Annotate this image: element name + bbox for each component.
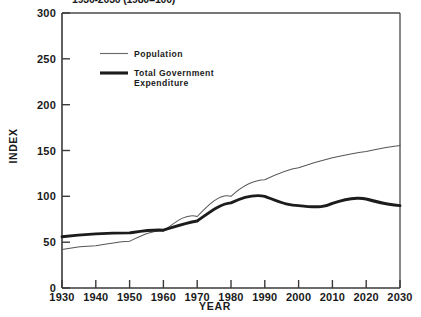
x-tick-label-1990: 1990: [247, 291, 283, 303]
legend-label-expenditure-line1: Total Government: [134, 68, 214, 79]
legend-label-population: Population: [134, 49, 183, 60]
y-axis-ticks: [62, 13, 70, 288]
y-axis-title: INDEX: [7, 124, 19, 168]
legend-label-expenditure-line2: Expenditure: [134, 78, 189, 89]
y-tick-label-150: 150: [16, 145, 56, 157]
x-axis-title: YEAR: [180, 300, 250, 312]
x-tick-label-1950: 1950: [112, 291, 148, 303]
x-tick-label-2020: 2020: [348, 291, 384, 303]
y-tick-label-100: 100: [16, 190, 56, 202]
x-tick-label-2000: 2000: [281, 291, 317, 303]
y-tick-label-200: 200: [16, 99, 56, 111]
x-tick-label-2010: 2010: [314, 291, 350, 303]
y-tick-label-300: 300: [16, 7, 56, 19]
x-tick-label-1930: 1930: [44, 291, 80, 303]
x-tick-label-1940: 1940: [78, 291, 114, 303]
chart-plot-area: [0, 0, 421, 317]
x-axis-ticks: [62, 280, 400, 288]
y-tick-label-250: 250: [16, 53, 56, 65]
y-tick-label-50: 50: [16, 236, 56, 248]
chart-figure: 1930-2030 (1980=100): [0, 0, 421, 317]
x-tick-label-2030: 2030: [382, 291, 418, 303]
x-tick-label-1960: 1960: [145, 291, 181, 303]
series-line-expenditure: [62, 196, 400, 237]
